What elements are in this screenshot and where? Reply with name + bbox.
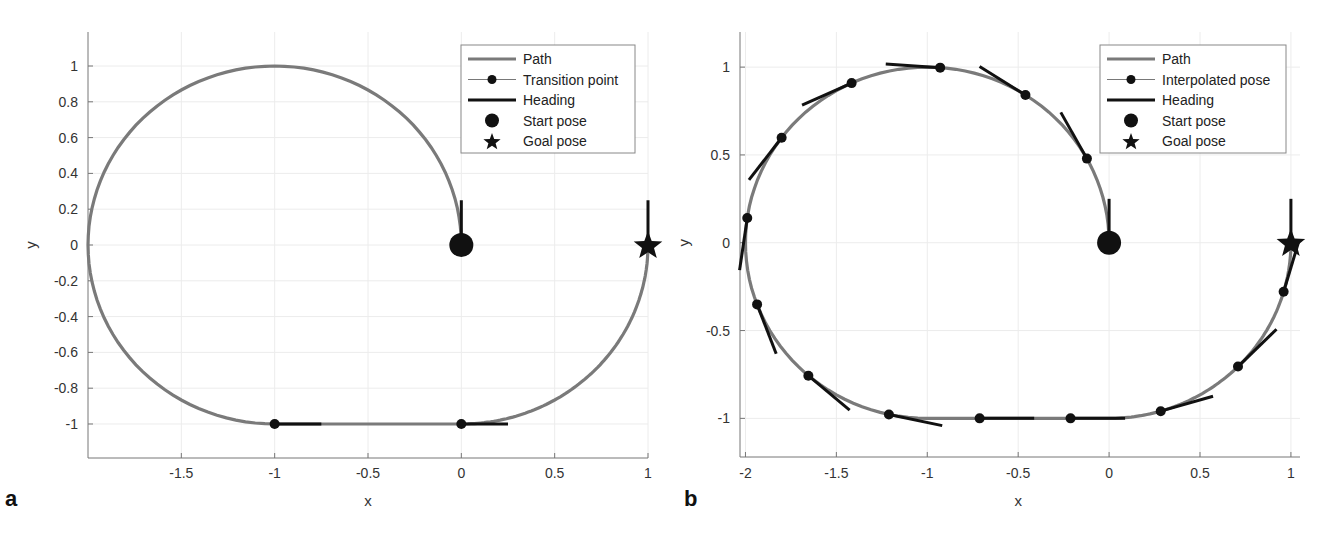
y-tick-label: 0.8 <box>59 94 79 110</box>
interpolated-pose <box>847 78 857 88</box>
legend-start-circle-icon <box>485 114 499 128</box>
interpolated-pose <box>1233 362 1243 372</box>
interpolated-pose <box>803 371 813 381</box>
legend-point-dot-icon <box>1127 75 1136 84</box>
legend-label: Goal pose <box>1162 133 1226 149</box>
interpolated-pose <box>742 213 752 223</box>
interpolated-pose <box>1082 154 1092 164</box>
y-tick-label: -1 <box>66 416 79 432</box>
transition-point <box>456 419 466 429</box>
x-tick-label: 0 <box>457 465 465 481</box>
x-tick-label: 0.5 <box>545 465 565 481</box>
legend: PathTransition pointHeadingStart poseGoa… <box>461 45 635 153</box>
heading-segment <box>1161 396 1213 411</box>
legend-label: Interpolated pose <box>1162 72 1270 88</box>
interpolated-pose <box>1156 406 1166 416</box>
y-axis-label: y <box>22 241 39 249</box>
x-tick-label: -2 <box>739 465 752 481</box>
heading-segment <box>1061 112 1087 158</box>
chart-a-plot: -1.5-1-0.500.5110.80.60.40.20-0.2-0.4-0.… <box>0 0 665 539</box>
legend-label: Path <box>523 51 552 67</box>
legend-label: Transition point <box>523 72 618 88</box>
x-tick-label: 1 <box>644 465 652 481</box>
interpolated-pose <box>1020 90 1030 100</box>
y-axis-label: y <box>675 238 692 246</box>
start-pose-marker <box>449 233 473 257</box>
x-tick-label: -0.5 <box>356 465 380 481</box>
x-tick-label: 1 <box>1287 465 1295 481</box>
heading-segment <box>808 376 849 410</box>
x-tick-label: -1 <box>921 465 934 481</box>
heading-segment <box>889 415 942 426</box>
x-axis-label: x <box>1014 492 1022 509</box>
y-tick-label: -1 <box>718 410 731 426</box>
panel-label-b: b <box>684 486 697 512</box>
legend-label: Heading <box>523 92 575 108</box>
transition-point <box>270 419 280 429</box>
heading-segment <box>802 83 852 105</box>
panel-a: -1.5-1-0.500.5110.80.60.40.20-0.2-0.4-0.… <box>0 0 665 539</box>
x-tick-label: -1 <box>268 465 281 481</box>
y-tick-label: 1 <box>722 59 730 75</box>
heading-segment <box>749 138 782 180</box>
y-tick-label: 0 <box>722 235 730 251</box>
y-tick-label: -0.5 <box>706 323 730 339</box>
y-tick-label: 0.6 <box>59 130 79 146</box>
x-tick-label: -0.5 <box>1006 465 1030 481</box>
y-tick-label: 0.5 <box>711 147 731 163</box>
interpolated-pose <box>752 299 762 309</box>
y-tick-label: -0.8 <box>54 380 78 396</box>
interpolated-pose <box>935 63 945 73</box>
interpolated-pose <box>1066 413 1076 423</box>
legend-start-circle-icon <box>1124 114 1138 128</box>
heading-segment <box>757 304 776 353</box>
y-tick-label: 1 <box>70 58 78 74</box>
legend-label: Start pose <box>1162 113 1226 129</box>
x-axis-label: x <box>364 492 372 509</box>
y-tick-label: -0.6 <box>54 344 78 360</box>
start-pose-marker <box>1097 231 1121 255</box>
y-tick-label: 0.2 <box>59 201 79 217</box>
y-tick-label: -0.4 <box>54 309 78 325</box>
panel-label-a: a <box>5 486 17 512</box>
legend-label: Start pose <box>523 113 587 129</box>
legend: PathInterpolated poseHeadingStart poseGo… <box>1100 45 1286 153</box>
x-tick-label: -1.5 <box>824 465 848 481</box>
y-tick-label: -0.2 <box>54 273 78 289</box>
legend-label: Goal pose <box>523 133 587 149</box>
y-tick-label: 0.4 <box>59 165 79 181</box>
chart-b-plot: -2-1.5-1-0.500.5110.50-0.5-1xyPathInterp… <box>665 0 1331 539</box>
legend-point-dot-icon <box>488 75 497 84</box>
heading-segment <box>1238 329 1277 366</box>
interpolated-pose <box>884 410 894 420</box>
legend-label: Path <box>1162 51 1191 67</box>
interpolated-pose <box>777 133 787 143</box>
y-tick-label: 0 <box>70 237 78 253</box>
interpolated-pose <box>975 413 985 423</box>
panel-b: -2-1.5-1-0.500.5110.50-0.5-1xyPathInterp… <box>665 0 1331 539</box>
x-tick-label: -1.5 <box>169 465 193 481</box>
legend-label: Heading <box>1162 92 1214 108</box>
x-tick-label: 0 <box>1105 465 1113 481</box>
interpolated-pose <box>1279 287 1289 297</box>
x-tick-label: 0.5 <box>1190 465 1210 481</box>
